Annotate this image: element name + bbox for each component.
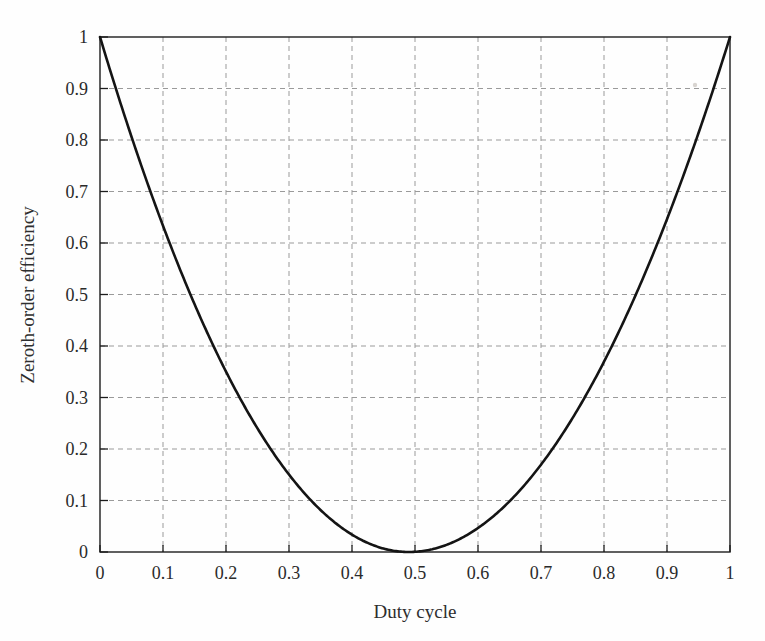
chart-background	[0, 0, 765, 641]
x-tick-label: 0	[96, 563, 105, 583]
x-tick-label: 0.2	[215, 563, 238, 583]
x-tick-label: 0.1	[152, 563, 175, 583]
y-tick-label: 1	[79, 27, 88, 47]
y-tick-label: 0.2	[66, 439, 89, 459]
x-tick-label: 0.5	[404, 563, 427, 583]
x-tick-label: 0.4	[341, 563, 364, 583]
y-tick-label: 0	[79, 542, 88, 562]
chart-figure: 00.10.20.30.40.50.60.70.80.91 00.10.20.3…	[0, 0, 765, 641]
y-tick-label: 0.3	[66, 388, 89, 408]
y-axis-label: Zeroth-order efficiency	[17, 206, 38, 384]
y-tick-label: 0.6	[66, 233, 89, 253]
chart-svg: 00.10.20.30.40.50.60.70.80.91 00.10.20.3…	[0, 0, 765, 641]
y-tick-label: 0.8	[66, 130, 89, 150]
y-tick-label: 0.9	[66, 79, 89, 99]
y-tick-label: 0.5	[66, 285, 89, 305]
y-tick-label: 0.1	[66, 491, 89, 511]
x-tick-label: 0.3	[278, 563, 301, 583]
x-tick-label: 0.6	[467, 563, 490, 583]
y-tick-label: 0.4	[66, 336, 89, 356]
scan-speck	[693, 83, 697, 87]
x-tick-label: 0.9	[656, 563, 679, 583]
chart-page: 00.10.20.30.40.50.60.70.80.91 00.10.20.3…	[0, 0, 765, 641]
x-tick-label: 0.8	[593, 563, 616, 583]
y-tick-label: 0.7	[66, 182, 89, 202]
x-axis-label: Duty cycle	[374, 601, 457, 622]
x-tick-label: 0.7	[530, 563, 553, 583]
x-tick-label: 1	[726, 563, 735, 583]
